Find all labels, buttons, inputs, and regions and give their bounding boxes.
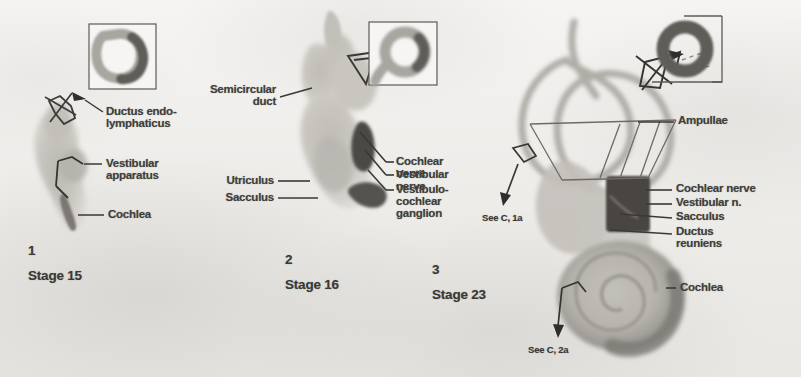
figure-canvas: Ductus endo- lymphaticus Vestibular appa… [0, 0, 801, 377]
inset-3 [470, 0, 801, 377]
panel-stage-16: Semicircular duct Utriculus Sacculus Coc… [200, 0, 470, 377]
panel-stage-23: Ampullae Cochlear nerve Vestibular n. Sa… [470, 0, 801, 377]
inset-1 [0, 0, 200, 377]
inset-2 [200, 0, 470, 377]
panel-3-number: 3 [432, 262, 440, 277]
panel-stage-15: Ductus endo- lymphaticus Vestibular appa… [0, 0, 200, 377]
